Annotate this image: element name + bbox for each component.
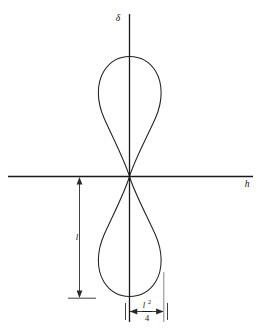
fraction-numerator-base: l bbox=[143, 300, 146, 310]
h-axis-label: h bbox=[245, 179, 250, 189]
fraction-denominator: 4 bbox=[145, 313, 150, 323]
vertical-dimension-label: l bbox=[76, 232, 79, 242]
fraction-numerator-exponent: 2 bbox=[148, 299, 151, 305]
delta-axis-label: δ bbox=[116, 13, 121, 23]
label-overlay: δ h l l 2 4 bbox=[0, 0, 264, 332]
figure-canvas: δ h l l 2 4 bbox=[0, 0, 264, 332]
